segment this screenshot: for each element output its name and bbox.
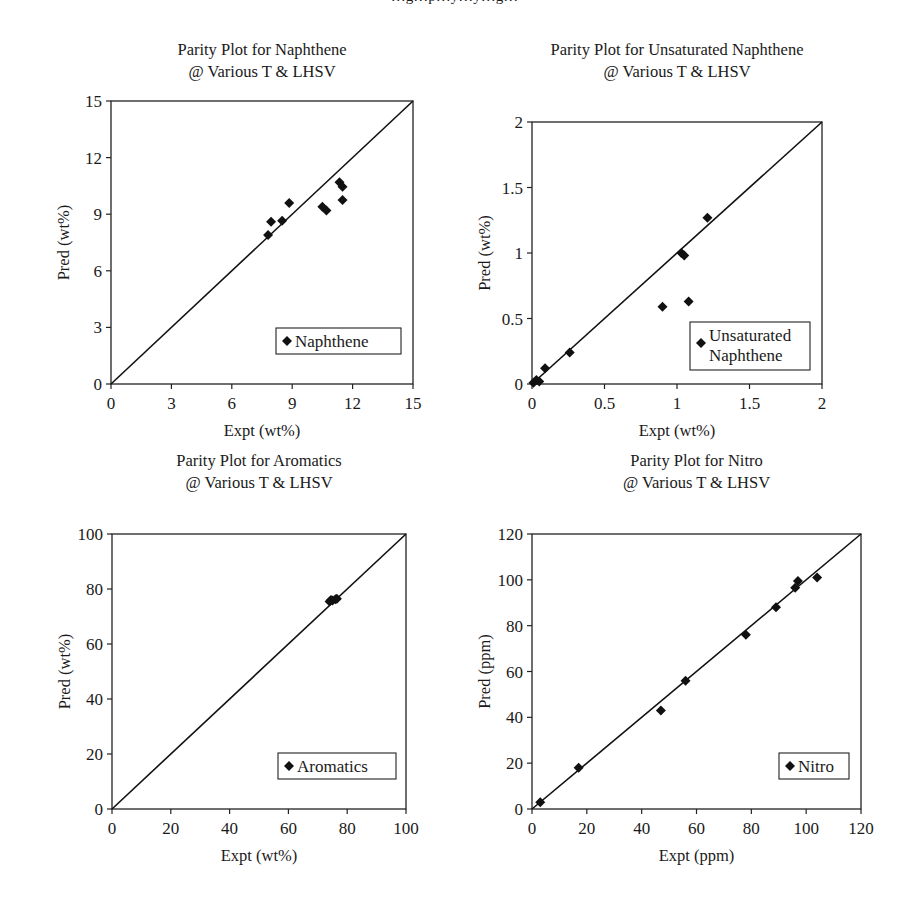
y-tick-label: 9 — [94, 205, 103, 224]
y-tick-label: 6 — [94, 262, 103, 281]
y-tick-label: 12 — [85, 149, 102, 168]
chart-aromatics: Parity Plot for Aromatics@ Various T & L… — [55, 451, 419, 865]
x-tick-label: 2 — [818, 394, 827, 413]
y-tick-label: 100 — [498, 571, 524, 590]
x-tick-label: 0.5 — [594, 394, 615, 413]
chart-subtitle: @ Various T & LHSV — [185, 473, 332, 492]
data-point-diamond — [684, 296, 694, 306]
legend-label: Naphthene — [295, 332, 369, 351]
data-point-diamond — [656, 705, 666, 715]
y-axis-label: Pred (wt%) — [54, 205, 73, 281]
y-tick-label: 1 — [515, 244, 524, 263]
data-point-diamond — [266, 217, 276, 227]
x-tick-label: 0 — [528, 819, 537, 838]
y-tick-label: 1.5 — [502, 179, 523, 198]
data-point-diamond — [574, 763, 584, 773]
chart-title: Parity Plot for Aromatics — [176, 451, 341, 470]
data-point-diamond — [338, 195, 348, 205]
y-tick-label: 0 — [94, 375, 103, 394]
chart-subtitle: @ Various T & LHSV — [188, 62, 335, 81]
x-tick-label: 100 — [793, 819, 819, 838]
x-tick-label: 6 — [228, 394, 237, 413]
y-tick-label: 0.5 — [502, 310, 523, 329]
legend: UnsaturatedNaphthene — [690, 322, 810, 370]
x-tick-label: 3 — [167, 394, 176, 413]
legend-label: Unsaturated — [709, 326, 792, 345]
y-axis-label: Pred (wt%) — [475, 215, 494, 291]
data-point-diamond — [277, 216, 287, 226]
x-tick-label: 20 — [162, 819, 179, 838]
y-tick-label: 0 — [515, 800, 524, 819]
data-point-diamond — [741, 630, 751, 640]
chart-title: Parity Plot for Nitro — [630, 451, 762, 470]
x-axis-label: Expt (ppm) — [659, 846, 735, 865]
x-tick-label: 1.5 — [739, 394, 760, 413]
legend: Naphthene — [276, 328, 401, 354]
x-tick-label: 0 — [107, 394, 116, 413]
x-tick-label: 60 — [280, 819, 297, 838]
y-tick-label: 0 — [515, 375, 524, 394]
x-axis-label: Expt (wt%) — [639, 421, 716, 440]
y-tick-label: 60 — [506, 663, 523, 682]
x-tick-label: 15 — [405, 394, 422, 413]
x-tick-label: 60 — [688, 819, 705, 838]
x-tick-label: 80 — [743, 819, 760, 838]
x-tick-label: 0 — [108, 819, 117, 838]
legend: Aromatics — [278, 753, 396, 779]
chart-subtitle: @ Various T & LHSV — [603, 62, 750, 81]
x-tick-label: 12 — [344, 394, 361, 413]
y-tick-label: 80 — [86, 580, 103, 599]
x-axis-label: Expt (wt%) — [224, 421, 301, 440]
x-axis-label: Expt (wt%) — [221, 846, 298, 865]
data-point-diamond — [540, 363, 550, 373]
legend-label: Naphthene — [709, 346, 783, 365]
data-point-diamond — [263, 230, 273, 240]
legend-label: Aromatics — [297, 757, 368, 776]
x-tick-label: 120 — [848, 819, 874, 838]
x-tick-label: 80 — [339, 819, 356, 838]
chart-naphthene: Parity Plot for Naphthene@ Various T & L… — [54, 40, 422, 440]
legend: Nitro — [779, 753, 849, 779]
y-tick-label: 60 — [86, 635, 103, 654]
x-tick-label: 9 — [288, 394, 297, 413]
y-tick-label: 40 — [506, 708, 523, 727]
y-tick-label: 15 — [85, 92, 102, 111]
x-tick-label: 1 — [673, 394, 682, 413]
y-tick-label: 20 — [86, 745, 103, 764]
x-tick-label: 40 — [633, 819, 650, 838]
parity-plot-grid: Parity Plot for Naphthene@ Various T & L… — [0, 0, 909, 905]
y-tick-label: 3 — [94, 318, 103, 337]
legend-label: Nitro — [798, 757, 834, 776]
y-tick-label: 120 — [498, 525, 524, 544]
chart-nitro: Parity Plot for Nitro@ Various T & LHSV0… — [475, 451, 874, 865]
x-tick-label: 0 — [528, 394, 537, 413]
y-axis-label: Pred (wt%) — [55, 634, 74, 710]
y-tick-label: 40 — [86, 690, 103, 709]
data-point-diamond — [565, 348, 575, 358]
chart-unsaturated-naphthene: Parity Plot for Unsaturated Naphthene@ V… — [475, 40, 826, 440]
data-point-diamond — [702, 213, 712, 223]
x-tick-label: 40 — [221, 819, 238, 838]
chart-title: Parity Plot for Naphthene — [177, 40, 346, 59]
x-tick-label: 20 — [578, 819, 595, 838]
y-tick-label: 20 — [506, 754, 523, 773]
chart-title: Parity Plot for Unsaturated Naphthene — [551, 40, 804, 59]
x-tick-label: 100 — [393, 819, 419, 838]
data-point-diamond — [658, 302, 668, 312]
data-point-diamond — [771, 602, 781, 612]
y-tick-label: 100 — [78, 525, 104, 544]
data-point-diamond — [284, 198, 294, 208]
y-axis-label: Pred (ppm) — [475, 634, 494, 709]
y-tick-label: 80 — [506, 617, 523, 636]
y-tick-label: 0 — [95, 800, 104, 819]
y-tick-label: 2 — [515, 113, 524, 132]
chart-subtitle: @ Various T & LHSV — [623, 473, 770, 492]
